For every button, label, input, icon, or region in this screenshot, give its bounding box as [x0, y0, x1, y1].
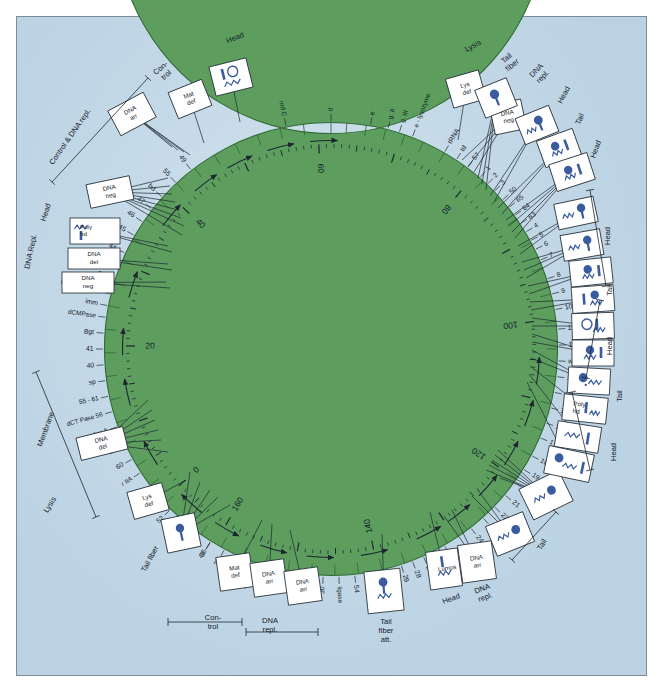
gene-tick	[221, 550, 224, 556]
gene-label: 29	[402, 574, 411, 584]
gene-label: r IIA	[120, 474, 134, 487]
group-annotation-text: Lysis	[42, 495, 59, 514]
scale-tick	[319, 144, 320, 153]
group-annotation-text: Tail	[380, 617, 392, 626]
phenotype-box	[364, 568, 404, 614]
group-annotation: DNArepl.	[527, 61, 552, 86]
gene-tick	[186, 164, 190, 170]
phenotype-box: DNAdel	[68, 248, 120, 269]
group-annotation: Control & DNA repl.	[47, 107, 92, 166]
phenotype-box	[161, 513, 201, 553]
phenotype-box: DNAdel	[76, 427, 128, 461]
phenotype-box	[567, 367, 610, 395]
phenotype-box-label: arr	[299, 585, 307, 593]
group-annotation: Tailfiberatt.	[379, 617, 394, 644]
gene-label: 8	[556, 270, 562, 278]
gene-label: imm	[85, 297, 99, 306]
gene-tick	[125, 460, 131, 463]
scale-label: 20	[145, 340, 155, 350]
gene-tick	[548, 276, 555, 278]
phenotype-box-label: Poly	[80, 223, 93, 230]
gene-label: 60	[115, 460, 125, 470]
gene-tick	[156, 192, 161, 197]
gene-tick	[506, 496, 511, 500]
phenotype-box: DNAarr	[250, 559, 288, 597]
group-annotation-text: Tail	[535, 537, 549, 552]
gene-label: 21	[511, 498, 521, 508]
gene-label: 4	[532, 221, 539, 229]
phenotype-box-label: neg	[83, 282, 94, 289]
group-annotation-text: Head	[556, 85, 572, 105]
gene-label: 55 - 61	[78, 394, 99, 405]
group-annotation: Head	[441, 591, 461, 606]
group-annotation: Head	[588, 139, 603, 159]
gene-tick	[524, 470, 530, 474]
phenotype-box: Polyhd	[562, 394, 608, 424]
group-annotation-text: Control & DNA repl.	[47, 107, 92, 166]
gene-tick	[471, 529, 475, 535]
phenotype-box-frame	[572, 312, 615, 339]
gene-tick	[541, 438, 547, 441]
phenotype-box: Matdef	[216, 553, 254, 591]
gene-tick	[457, 153, 461, 159]
group-annotation-text: Head	[609, 443, 618, 461]
gene-tick	[526, 228, 532, 232]
gene-tick	[547, 423, 554, 425]
group-annotation-text: trol	[208, 622, 219, 631]
gene-tick	[98, 381, 105, 382]
group-annotation: Head	[556, 85, 572, 105]
phenotype-box: DNAneg	[86, 176, 134, 209]
phenotype-box: DNAarr	[458, 541, 497, 583]
gene-label: sp	[88, 378, 96, 387]
group-annotation: Head	[605, 337, 614, 355]
gene-label: dCMPase	[68, 308, 97, 319]
gene-tick	[484, 518, 489, 523]
gene-tick	[105, 412, 112, 414]
gene-label: 2	[491, 171, 499, 179]
gene-label: 55	[162, 167, 172, 177]
gene-tick	[136, 218, 142, 222]
group-annotation: Head	[609, 443, 618, 461]
gene-tick	[400, 125, 402, 132]
gene-tick	[355, 576, 356, 583]
group-annotation-text: DNA	[262, 616, 279, 625]
gene-tick	[100, 304, 107, 305]
group-annotation-text: Tail	[573, 112, 586, 126]
group-annotation: DNArepl.	[473, 581, 495, 604]
phenotype-box-label: hd	[80, 230, 87, 237]
gene-tick	[481, 172, 486, 177]
group-annotation-text: fiber	[379, 626, 394, 635]
group-annotation-text: Head	[605, 337, 614, 355]
group-annotation: DNA Repl.	[22, 233, 38, 270]
phenotype-box: Polyhd	[70, 218, 120, 244]
gene-label: ligase	[336, 586, 345, 603]
group-annotation-text: att.	[381, 635, 392, 644]
gene-tick	[127, 232, 133, 236]
phenotype-box: Lumps	[426, 548, 463, 590]
phenotype-box-label: DNA	[87, 250, 101, 257]
gene-label: 9	[560, 286, 566, 294]
gene-tick	[495, 186, 500, 191]
group-annotation: Membrane	[35, 411, 56, 448]
function-bracket	[246, 628, 318, 636]
phenotype-box-label: def	[231, 571, 241, 579]
gene-tick	[445, 145, 449, 151]
group-annotation-text: repl.	[263, 625, 278, 634]
gene-tick	[98, 316, 105, 317]
gene-label: 54	[353, 585, 361, 593]
gene-label: Bgt	[84, 328, 95, 337]
phenotype-box	[569, 257, 613, 287]
gene-label: td	[459, 144, 468, 153]
group-annotation-text: Head	[39, 202, 53, 222]
gene-tick	[468, 161, 472, 167]
group-annotation: DNArepl.	[262, 616, 279, 634]
group-annotation-text: Con-	[205, 613, 222, 622]
group-annotation: Tail	[615, 390, 624, 402]
gene-tick	[556, 308, 563, 309]
phenotype-box-frame	[567, 367, 610, 395]
gene-tick	[401, 566, 403, 573]
phenotype-box-label: arr	[473, 561, 481, 569]
phenotype-box-label: del	[90, 258, 98, 265]
gene-tick	[557, 377, 564, 378]
phenotype-box: DNAarr	[284, 567, 322, 605]
